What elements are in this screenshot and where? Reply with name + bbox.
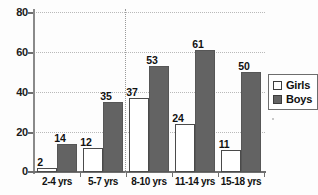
bar-boys-15-18-yrs <box>241 72 261 172</box>
bar-boys-5-7-yrs <box>103 102 123 172</box>
legend-swatch-boys-icon <box>273 95 282 104</box>
bar-boys-11-14-yrs <box>195 50 215 172</box>
bar-girls-8-10-yrs <box>129 98 149 172</box>
bar-boys-8-10-yrs <box>149 66 169 172</box>
legend-label-boys: Boys <box>286 93 312 105</box>
bar-girls-15-18-yrs <box>221 150 241 172</box>
value-label-boys-2-4-yrs: 14 <box>49 132 71 144</box>
legend-item-boys: Boys <box>273 92 312 106</box>
value-label-boys-8-10-yrs: 53 <box>141 54 163 66</box>
value-label-boys-11-14-yrs: 61 <box>187 38 209 50</box>
bar-girls-11-14-yrs <box>175 124 195 172</box>
bar-chart: 80 60 40 20 0 2 14 12 35 37 53 24 61 11 … <box>0 0 318 195</box>
legend-item-girls: Girls <box>273 78 312 92</box>
value-label-boys-5-7-yrs: 35 <box>95 90 117 102</box>
bar-boys-2-4-yrs <box>57 144 77 172</box>
legend-swatch-girls-icon <box>273 81 282 90</box>
value-label-girls-5-7-yrs: 12 <box>75 136 97 148</box>
category-separator-5 <box>264 172 265 177</box>
ytick-label-20: 20 <box>2 126 28 138</box>
category-label-11-14-yrs: 11-14 yrs <box>172 176 218 187</box>
value-label-girls-15-18-yrs: 11 <box>213 138 235 150</box>
value-label-boys-15-18-yrs: 50 <box>233 60 255 72</box>
ytick-label-80: 80 <box>2 6 28 18</box>
bar-girls-5-7-yrs <box>83 148 103 172</box>
ytick-label-0: 0 <box>2 165 28 177</box>
category-label-5-7-yrs: 5-7 yrs <box>80 176 126 187</box>
ytick-label-60: 60 <box>2 46 28 58</box>
ytick-label-40: 40 <box>2 86 28 98</box>
legend-label-girls: Girls <box>286 79 310 91</box>
value-label-girls-8-10-yrs: 37 <box>121 86 143 98</box>
value-label-girls-11-14-yrs: 24 <box>167 112 189 124</box>
category-label-15-18-yrs: 15-18 yrs <box>218 176 264 187</box>
bar-girls-2-4-yrs <box>37 168 57 172</box>
chart-legend: Girls Boys <box>268 74 318 110</box>
category-label-8-10-yrs: 8-10 yrs <box>126 176 172 187</box>
value-label-girls-2-4-yrs: 2 <box>29 156 51 168</box>
category-label-2-4-yrs: 2-4 yrs <box>34 176 80 187</box>
scan-artifact-speck <box>272 118 274 120</box>
